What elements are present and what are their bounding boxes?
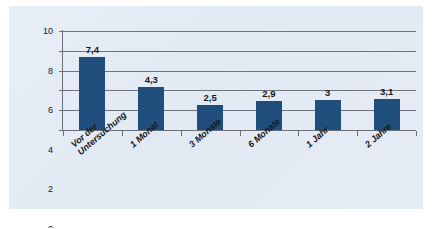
x-tick-mark [122,131,123,136]
gridline [63,90,416,91]
y-tick-label: 4 [48,145,53,154]
y-tick-mark: 10 [59,31,63,32]
x-tick-mark [240,131,241,136]
bar-value-label: 3 [325,88,330,98]
bar-value-label: 2,9 [262,89,275,99]
y-tick-label: 8 [48,66,53,75]
x-tick-mark [181,131,182,136]
x-tick-mark [357,131,358,136]
y-tick-mark: 8 [59,51,63,52]
chart-figure: 0246810 7,44,32,52,933,1 Vor derUntersuc… [0,0,433,228]
gridline [63,71,416,72]
gridline [63,51,416,52]
x-tick-mark [416,131,417,136]
bar-value-label: 4,3 [145,75,158,85]
y-tick-label: 6 [48,106,53,115]
y-tick-label: 0 [48,225,53,229]
x-tick-mark [63,131,64,136]
gridline [63,31,416,32]
bar [315,100,341,130]
y-tick-mark: 2 [59,110,63,111]
x-tick-mark [298,131,299,136]
y-tick-mark: 4 [59,90,63,91]
bar-value-label: 2,5 [203,93,216,103]
y-tick-mark: 6 [59,71,63,72]
y-tick-label: 10 [43,27,53,36]
bar-value-label: 3,1 [380,87,393,97]
y-tick-label: 2 [48,185,53,194]
bar-value-label: 7,4 [86,44,99,54]
